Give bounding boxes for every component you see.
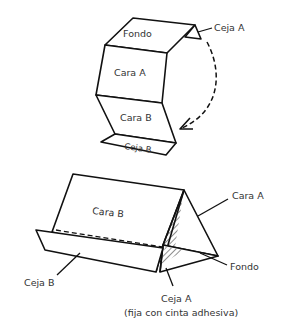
label-ceja-b-bottom: Ceja B (24, 277, 54, 288)
leader-ceja-b (57, 253, 80, 275)
label-cara-a-top: Cara A (114, 67, 146, 78)
label-ceja-a-note: (fija con cinta adhesiva) (124, 307, 238, 318)
leader-ceja-a (166, 268, 173, 286)
leader-cara-a (198, 199, 228, 216)
label-ceja-a-top: Ceja A (214, 22, 245, 33)
top-figure (96, 18, 216, 155)
label-fondo-top: Fondo (123, 28, 152, 39)
bottom-figure (36, 174, 228, 286)
dashed-curved-arrow (182, 42, 216, 128)
label-cara-a-bottom: Cara A (232, 190, 264, 201)
folding-diagram: Fondo Cara A Cara B Ceja B Ceja A Cara B… (0, 0, 281, 334)
label-fondo-bottom: Fondo (230, 261, 259, 272)
label-ceja-a-bottom: Ceja A (161, 293, 192, 304)
ceja-a-leader (198, 28, 212, 32)
label-cara-b-top: Cara B (120, 112, 152, 123)
